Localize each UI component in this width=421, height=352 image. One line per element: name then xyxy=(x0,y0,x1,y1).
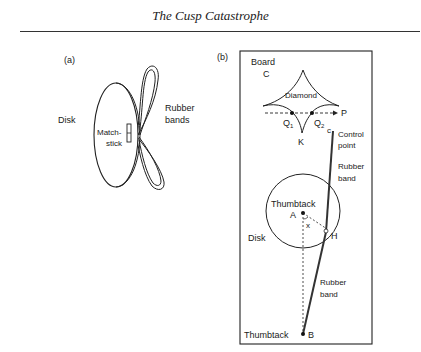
rubber-bands-label-2: bands xyxy=(165,115,190,125)
matchstick xyxy=(127,124,131,142)
panel-b: (b) Board C Diamond P Q1 Q2 K c Control … xyxy=(217,51,372,344)
panel-a: (a) Disk Match- stick Rubber bands xyxy=(58,55,195,189)
rubber-band-upper-label-1: Rubber xyxy=(338,162,365,171)
panel-a-label: (a) xyxy=(64,55,75,65)
q1-point xyxy=(290,111,294,115)
diamond-curve xyxy=(263,70,339,133)
thumbtack-upper-label: Thumbtack xyxy=(271,199,316,209)
disk-b-label: Disk xyxy=(248,233,266,243)
rubber-band-upper xyxy=(326,131,333,232)
k-label: K xyxy=(298,137,304,147)
a-label: A xyxy=(290,210,296,220)
c-upper-label: C xyxy=(263,69,270,79)
disk-a-label: Disk xyxy=(58,115,76,125)
arrow-p-icon xyxy=(333,111,338,116)
b-label: B xyxy=(308,330,314,340)
thumbtack-lower-label: Thumbtack xyxy=(244,330,289,340)
q2-point xyxy=(310,111,314,115)
h-point xyxy=(324,229,328,233)
h-label: H xyxy=(331,231,338,241)
rubber-bands xyxy=(137,66,164,189)
board-label: Board xyxy=(251,57,275,67)
c-lower-label: c xyxy=(327,126,331,135)
q1-label: Q1 xyxy=(283,118,294,129)
rubber-band-upper-label-2: band xyxy=(338,174,356,183)
rubber-bands-label-1: Rubber xyxy=(165,103,195,113)
rubber-band-lower-label-2: band xyxy=(320,290,338,299)
matchstick-label-1: Match- xyxy=(97,128,122,137)
angle-arc xyxy=(303,217,308,219)
control-point-label-2: point xyxy=(338,141,356,150)
diamond-label: Diamond xyxy=(285,91,317,100)
q2-label: Q2 xyxy=(314,118,325,129)
x-label: x xyxy=(306,221,310,230)
cusp-catastrophe-figure: (a) Disk Match- stick Rubber bands (b) B… xyxy=(0,0,421,352)
p-label: P xyxy=(341,108,347,118)
matchstick-label-2: stick xyxy=(106,139,123,148)
thumbtack-b xyxy=(301,332,305,336)
rubber-band-lower-label-1: Rubber xyxy=(320,278,347,287)
panel-b-label: (b) xyxy=(217,52,228,62)
control-point-label-1: Control xyxy=(338,130,364,139)
